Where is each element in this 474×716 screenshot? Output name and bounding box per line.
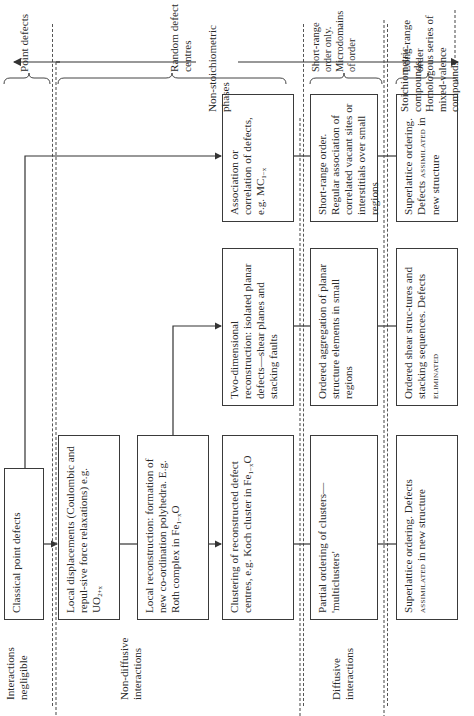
label-non-stoichiometric: Non-stoichiometric phases xyxy=(206,2,232,112)
label-stoichiometric: Stoichiometric compounds. Homologous ser… xyxy=(398,2,461,112)
